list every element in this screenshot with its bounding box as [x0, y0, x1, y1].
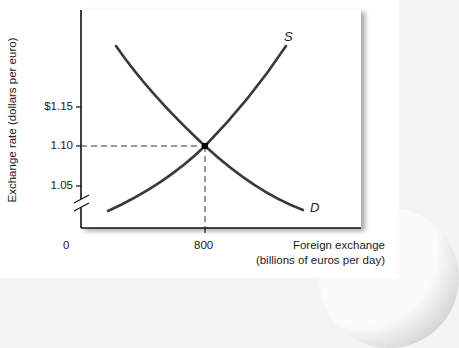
x-axis-label-line1: Foreign exchange	[256, 238, 385, 253]
y-tick-label-115: $1.15	[23, 100, 73, 112]
x-axis-label-line2: (billions of euros per day)	[256, 253, 385, 268]
y-tick-label-110: 1.10	[23, 139, 73, 151]
x-tick-label-0: 0	[63, 239, 69, 251]
supply-curve-label: S	[284, 29, 293, 44]
demand-curve-label: D	[310, 200, 319, 215]
x-tick-label-800: 800	[194, 239, 213, 251]
y-axis-label: Exchange rate (dollars per euro)	[6, 38, 18, 203]
demand-curve	[116, 46, 303, 210]
y-tick-label-105: 1.05	[23, 179, 73, 191]
equilibrium-point	[202, 143, 208, 149]
x-axis-label: Foreign exchange (billions of euros per …	[256, 238, 385, 268]
